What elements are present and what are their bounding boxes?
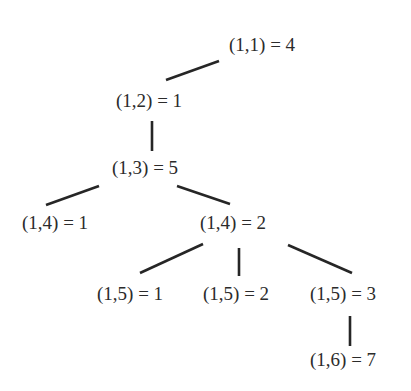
node-1-5-a: (1,5) = 1 <box>97 283 163 305</box>
edge-n3-n4b <box>177 186 230 204</box>
node-1-5-b: (1,5) = 2 <box>203 283 269 305</box>
edge-n3-n4a <box>46 186 99 205</box>
node-1-1: (1,1) = 4 <box>229 34 295 56</box>
edge-n4b-n5a <box>140 244 203 273</box>
node-1-4-a: (1,4) = 1 <box>22 212 88 234</box>
node-1-6: (1,6) = 7 <box>310 349 376 371</box>
node-1-4-b: (1,4) = 2 <box>200 212 266 234</box>
node-1-5-c: (1,5) = 3 <box>310 283 376 305</box>
tree-edges <box>0 0 411 391</box>
edge-n1-n2 <box>166 61 219 80</box>
node-1-3: (1,3) = 5 <box>112 157 178 179</box>
node-1-2: (1,2) = 1 <box>116 90 182 112</box>
edge-n4b-n5c <box>288 245 352 273</box>
